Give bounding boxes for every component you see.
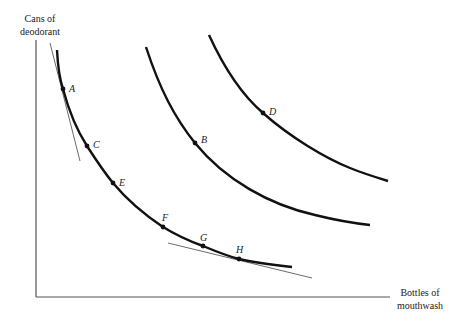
y-axis-label-line2: deodorant (20, 26, 60, 37)
point-label-D: D (268, 106, 277, 117)
point-D (261, 111, 266, 116)
tangent-at-A (50, 43, 80, 161)
point-A (61, 87, 66, 92)
point-H (237, 257, 242, 262)
y-axis-label-line1: Cans of (25, 13, 57, 24)
point-label-H: H (235, 244, 244, 255)
point-label-G: G (200, 232, 207, 243)
indifference-curve-3 (209, 35, 388, 181)
indifference-curve-diagram: Cans of deodorant Bottles of mouthwash A… (0, 0, 458, 321)
point-label-A: A (68, 83, 76, 94)
point-F (161, 225, 166, 230)
x-axis-label-line2: mouthwash (397, 300, 443, 311)
point-label-E: E (118, 177, 125, 188)
point-label-C: C (93, 139, 100, 150)
point-label-F: F (161, 212, 169, 223)
x-axis-label-line1: Bottles of (400, 287, 440, 298)
point-E (111, 181, 116, 186)
indifference-curve-1 (57, 50, 292, 267)
point-label-B: B (201, 134, 207, 145)
point-B (193, 141, 198, 146)
point-G (201, 244, 206, 249)
indifference-curve-2 (146, 47, 370, 225)
point-C (85, 144, 90, 149)
